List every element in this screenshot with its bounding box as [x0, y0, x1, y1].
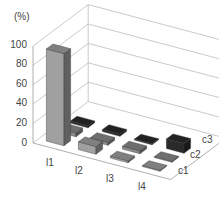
x-tick-l3: l3 — [106, 173, 114, 184]
grid-line — [88, 82, 219, 119]
y-tick-20: 20 — [16, 117, 28, 128]
grid-line — [88, 63, 219, 100]
x-tick-l1: l1 — [46, 157, 54, 168]
x-tick-l2: l2 — [75, 165, 83, 176]
bar-side-face — [64, 49, 71, 146]
grid-line — [88, 5, 219, 42]
y-tick-80: 80 — [16, 58, 28, 69]
3d-bar-chart: (%) 100 80 60 40 20 0 l1 l2 l3 l4 c1 c2 … — [0, 0, 219, 198]
grid-line — [88, 43, 219, 80]
y-tick-60: 60 — [16, 78, 28, 89]
z-tick-c1: c1 — [178, 165, 189, 176]
y-tick-100: 100 — [10, 39, 27, 50]
x-tick-l4: l4 — [138, 181, 146, 192]
y-tick-40: 40 — [16, 97, 28, 108]
y-tick-0: 0 — [21, 137, 27, 148]
axes: (%) 100 80 60 40 20 0 l1 l2 l3 l4 c1 c2 … — [10, 11, 213, 192]
z-tick-c2: c2 — [190, 149, 201, 160]
grid-line — [33, 5, 88, 46]
bar-front-face — [46, 49, 64, 146]
grid-line — [88, 24, 219, 61]
z-tick-c3: c3 — [202, 134, 213, 145]
y-axis-unit: (%) — [14, 11, 30, 22]
